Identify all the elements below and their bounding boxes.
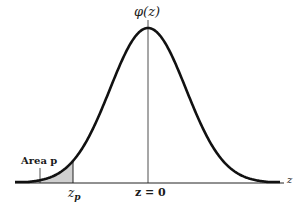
normal-distribution-figure: φ(z) Area p zp z = 0 z <box>0 0 303 210</box>
area-label-text: Area p <box>21 155 57 166</box>
area-label: Area p <box>21 155 57 166</box>
density-plot <box>0 0 303 210</box>
z0-label: z = 0 <box>135 186 166 199</box>
zp-label: zp <box>68 186 81 202</box>
axis-label: z <box>287 174 292 185</box>
zp-sub: p <box>74 192 80 202</box>
curve-label: φ(z) <box>134 4 160 19</box>
